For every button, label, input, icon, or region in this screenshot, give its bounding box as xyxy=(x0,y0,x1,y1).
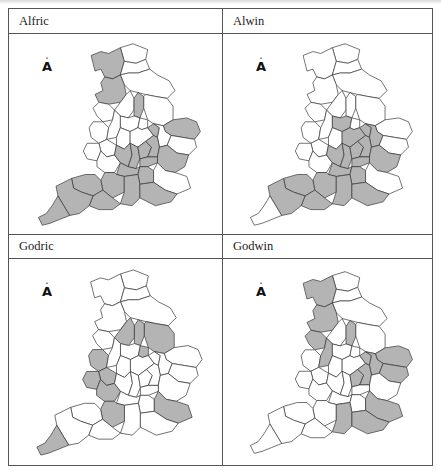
county-lancashire xyxy=(307,75,338,104)
map-panel: •A xyxy=(9,259,223,465)
panel-header-alfric: Alfric xyxy=(9,9,223,34)
county-cheshire xyxy=(93,330,115,350)
county-middlesex xyxy=(140,157,158,167)
county-nottinghamshire xyxy=(134,320,144,346)
county-lincolnshire xyxy=(356,94,385,125)
cropped-caption-line xyxy=(0,0,441,4)
panel-title: Alfric xyxy=(19,14,49,29)
map-grid-table: Alfric Alwin •A •A Godric Godwin •A •A xyxy=(8,8,433,466)
county-lincolnshire xyxy=(356,322,385,353)
county-cheshire xyxy=(305,330,326,350)
north-arrow-icon: •A xyxy=(256,281,266,298)
panel-title: Alwin xyxy=(233,14,264,29)
county-lancashire xyxy=(95,75,126,104)
england-county-map xyxy=(9,259,222,465)
county-surrey xyxy=(350,167,366,185)
north-arrow-icon: •A xyxy=(42,281,52,298)
county-surrey xyxy=(138,167,154,185)
county-lancashire xyxy=(95,302,127,332)
panel-title: Godric xyxy=(19,239,54,254)
county-cumbria xyxy=(303,48,336,79)
map-panel: •A xyxy=(223,259,432,465)
county-cumbria xyxy=(303,276,336,307)
panel-title: Godwin xyxy=(233,239,273,254)
county-cheshire xyxy=(93,102,114,122)
county-lancashire xyxy=(307,303,338,332)
england-county-map xyxy=(9,34,222,234)
county-nottinghamshire xyxy=(134,93,144,118)
england-county-map xyxy=(223,34,432,234)
north-arrow-icon: •A xyxy=(42,56,52,73)
county-cumbria xyxy=(91,274,125,306)
panel-header-alwin: Alwin xyxy=(223,9,432,34)
north-arrow-icon: •A xyxy=(256,56,266,73)
county-surrey xyxy=(350,395,366,413)
county-cheshire xyxy=(305,102,326,122)
panel-header-godric: Godric xyxy=(9,235,223,259)
county-middlesex xyxy=(352,157,370,167)
county-surrey xyxy=(138,395,154,413)
county-middlesex xyxy=(140,385,158,395)
county-lincolnshire xyxy=(144,94,173,125)
panel-header-godwin: Godwin xyxy=(223,235,432,259)
county-middlesex xyxy=(352,385,370,395)
england-county-map xyxy=(223,259,432,465)
map-panel: •A xyxy=(223,34,432,235)
map-panel: •A xyxy=(9,34,223,235)
county-nottinghamshire xyxy=(346,320,356,345)
county-nottinghamshire xyxy=(346,93,356,118)
county-cumbria xyxy=(91,48,124,79)
county-lincolnshire xyxy=(144,322,174,354)
